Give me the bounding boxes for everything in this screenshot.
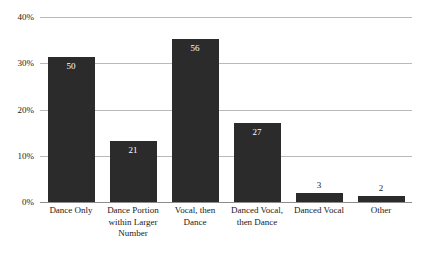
- bar-slot-dance-only: 50: [40, 17, 102, 202]
- ytick-label-30: 30%: [18, 59, 35, 68]
- gridline-0-baseline: 0%: [40, 202, 412, 203]
- bar-slot-other: 2: [350, 17, 412, 202]
- bar-slot-danced-vocal: 3: [288, 17, 350, 202]
- bar-other[interactable]: 2: [358, 196, 405, 202]
- ytick-label-10: 10%: [18, 151, 35, 160]
- bar-slot-vocal-then-dance: 56: [164, 17, 226, 202]
- x-axis-labels: Dance Only Dance Portion within Larger N…: [40, 205, 412, 240]
- bar-value-label: 21: [110, 146, 157, 155]
- bar-value-label: 3: [296, 181, 343, 190]
- bar-danced-vocal-then-dance[interactable]: 27: [234, 123, 281, 202]
- x-label-dance-only: Dance Only: [40, 205, 102, 240]
- bar-dance-portion[interactable]: 21: [110, 141, 157, 202]
- bar-dance-only[interactable]: 50: [48, 57, 95, 202]
- plot-area: 40% 30% 20% 10% 0% 50 21: [40, 17, 412, 202]
- ytick-label-0: 0%: [22, 198, 34, 207]
- bar-value-label: 56: [172, 44, 219, 53]
- x-label-dance-portion: Dance Portion within Larger Number: [102, 205, 164, 240]
- bar-vocal-then-dance[interactable]: 56: [172, 39, 219, 202]
- x-label-danced-vocal: Danced Vocal: [288, 205, 350, 240]
- x-label-vocal-then-dance: Vocal, then Dance: [164, 205, 226, 240]
- bar-slot-danced-vocal-then-dance: 27: [226, 17, 288, 202]
- bar-value-label: 50: [48, 62, 95, 71]
- bar-chart: 40% 30% 20% 10% 0% 50 21: [0, 0, 426, 272]
- x-label-other: Other: [350, 205, 412, 240]
- ytick-label-20: 20%: [18, 105, 35, 114]
- bar-value-label: 2: [358, 184, 405, 193]
- ytick-label-40: 40%: [18, 13, 35, 22]
- bar-slot-dance-portion: 21: [102, 17, 164, 202]
- bars-layer: 50 21 56 27 3: [40, 17, 412, 202]
- bar-danced-vocal[interactable]: 3: [296, 193, 343, 202]
- bar-value-label: 27: [234, 128, 281, 137]
- x-label-danced-vocal-then-dance: Danced Vocal, then Dance: [226, 205, 288, 240]
